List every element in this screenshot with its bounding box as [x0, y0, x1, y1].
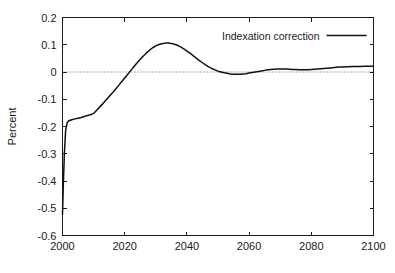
x-tick-label: 2060 [237, 240, 261, 252]
x-tick-label: 2080 [299, 240, 323, 252]
y-tick-label: 0.2 [41, 12, 56, 24]
y-tick-label: -0.2 [38, 121, 57, 133]
series-line-0 [63, 43, 374, 214]
y-tick-label: 0.1 [41, 39, 56, 51]
line-chart-canvas: 0.20.10-0.1-0.2-0.3-0.4-0.5-0.6200020202… [0, 0, 395, 273]
y-tick-label: 0 [50, 66, 56, 78]
y-tick-label: -0.5 [38, 202, 57, 214]
y-axis-title: Percent [6, 108, 18, 146]
chart-figure: 0.20.10-0.1-0.2-0.3-0.4-0.5-0.6200020202… [0, 0, 395, 273]
x-tick-label: 2020 [112, 240, 136, 252]
y-tick-label: -0.1 [38, 93, 57, 105]
y-tick-label: -0.3 [38, 148, 57, 160]
x-tick-label: 2000 [50, 240, 74, 252]
x-tick-label: 2100 [361, 240, 385, 252]
x-tick-label: 2040 [175, 240, 199, 252]
y-tick-label: -0.4 [38, 175, 57, 187]
legend-label: Indexation correction [222, 30, 320, 42]
plot-frame [63, 18, 374, 236]
